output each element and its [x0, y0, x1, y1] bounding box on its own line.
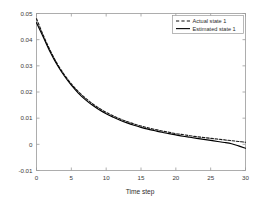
- chart-plot: 051015202530 -0.0100.010.020.030.040.05 …: [0, 0, 257, 201]
- chart-legend: Actual state 1Estimated state 1: [173, 16, 244, 34]
- x-axis-title: Time step: [126, 188, 155, 196]
- x-tick-label: 20: [172, 174, 179, 181]
- x-tick-label: 10: [103, 174, 110, 181]
- y-tick-label: 0: [29, 141, 33, 148]
- y-tick-label: -0.01: [18, 167, 33, 174]
- y-tick-label: 0.01: [20, 114, 33, 121]
- y-tick-label: 0.05: [20, 10, 33, 17]
- y-tick-label: 0.02: [20, 88, 33, 95]
- figure-canvas: 051015202530 -0.0100.010.020.030.040.05 …: [0, 0, 257, 201]
- x-tick-label: 5: [70, 174, 74, 181]
- y-tick-label: 0.03: [20, 62, 33, 69]
- x-tick-label: 15: [138, 174, 145, 181]
- x-tick-label: 0: [35, 174, 39, 181]
- y-tick-label: 0.04: [20, 36, 33, 43]
- legend-label-1: Actual state 1: [193, 18, 227, 24]
- x-tick-label: 30: [242, 174, 249, 181]
- legend-label-2: Estimated state 1: [193, 26, 236, 32]
- x-tick-label: 25: [207, 174, 214, 181]
